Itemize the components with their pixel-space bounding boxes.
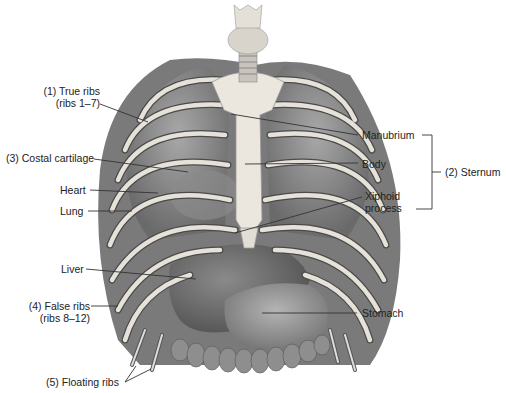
label-costal-cartilage: (3) Costal cartilage xyxy=(6,152,94,164)
label-false-ribs-line2: (ribs 8–12) xyxy=(10,312,90,324)
label-true-ribs-line2: (ribs 1–7) xyxy=(20,97,100,109)
label-floating-ribs: (5) Floating ribs xyxy=(46,376,119,388)
label-lung: Lung xyxy=(60,205,83,217)
label-xiphoid-process: Xiphoid process xyxy=(365,190,402,214)
label-liver: Liver xyxy=(61,263,84,275)
label-body: Body xyxy=(362,158,386,170)
label-manubrium: Manubrium xyxy=(362,129,415,141)
label-false-ribs: (4) False ribs (ribs 8–12) xyxy=(10,300,90,324)
label-false-ribs-line1: (4) False ribs xyxy=(10,300,90,312)
label-heart: Heart xyxy=(60,184,86,196)
label-xiphoid-line2: process xyxy=(365,202,402,214)
label-true-ribs-line1: (1) True ribs xyxy=(20,85,100,97)
label-stomach: Stomach xyxy=(362,307,403,319)
label-xiphoid-line1: Xiphoid xyxy=(365,190,402,202)
label-sternum: (2) Sternum xyxy=(445,166,500,178)
rib-cage-illustration xyxy=(0,0,506,393)
label-true-ribs: (1) True ribs (ribs 1–7) xyxy=(20,85,100,109)
